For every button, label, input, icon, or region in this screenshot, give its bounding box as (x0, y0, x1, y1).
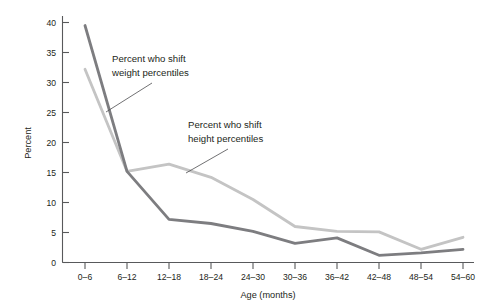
weight-annotation-line1: Percent who shift (112, 53, 186, 64)
height-annotation-line2: height percentiles (188, 133, 263, 144)
x-tick-label-0: 0–6 (78, 272, 93, 282)
x-axis-title: Age (months) (240, 290, 295, 300)
y-tick-label-35: 35 (46, 48, 56, 58)
height-annotation-line1: Percent who shift (188, 119, 262, 130)
y-tick-label-5: 5 (51, 228, 56, 238)
x-tick-label-8: 48–54 (409, 272, 433, 282)
y-tick-label-10: 10 (46, 198, 56, 208)
x-tick-label-5: 30–36 (283, 272, 307, 282)
y-tick-label-30: 30 (46, 78, 56, 88)
y-tick-label-0: 0 (51, 258, 56, 268)
height-annotation-leader (186, 149, 228, 173)
x-tick-label-1: 6–12 (117, 272, 136, 282)
weight-annotation: Percent who shift weight percentiles (106, 53, 189, 112)
line-chart: 40 35 30 25 20 15 10 5 0 0–6 6–12 (0, 0, 502, 307)
height-annotation: Percent who shift height percentiles (186, 119, 263, 173)
x-tick-label-7: 42–48 (367, 272, 391, 282)
x-axis-tick-labels: 0–6 6–12 12–18 18–24 24–30 30–36 36–42 4… (78, 272, 475, 282)
y-tick-label-25: 25 (46, 108, 56, 118)
x-tick-label-6: 36–42 (325, 272, 349, 282)
x-tick-label-2: 12–18 (157, 272, 181, 282)
y-axis-title: Percent (23, 127, 33, 159)
y-tick-label-20: 20 (46, 138, 56, 148)
y-axis-tick-labels: 40 35 30 25 20 15 10 5 0 (46, 18, 56, 268)
height-percentiles-line (85, 69, 463, 249)
y-tick-label-40: 40 (46, 18, 56, 28)
chart-container: 40 35 30 25 20 15 10 5 0 0–6 6–12 (0, 0, 502, 307)
y-tick-label-15: 15 (46, 168, 56, 178)
x-axis-ticks (85, 263, 463, 270)
weight-annotation-line2: weight percentiles (111, 67, 189, 78)
x-tick-label-9: 54–60 (451, 272, 475, 282)
x-tick-label-4: 24–30 (241, 272, 265, 282)
weight-annotation-leader (106, 83, 152, 112)
x-tick-label-3: 18–24 (199, 272, 223, 282)
y-axis-ticks (63, 23, 70, 263)
